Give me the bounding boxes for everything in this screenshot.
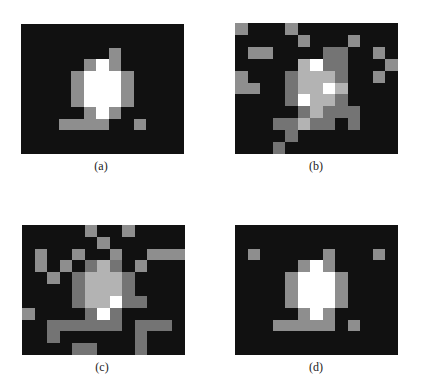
pixel-cell <box>121 71 134 83</box>
pixel-cell <box>248 23 261 35</box>
pixel-cell <box>96 142 109 154</box>
pixel-cell <box>348 249 361 261</box>
pixel-cell <box>323 47 336 59</box>
pixel-cell <box>323 260 336 272</box>
pixel-cell <box>135 320 148 332</box>
pixel-cell <box>135 249 148 261</box>
pixel-cell <box>97 343 110 355</box>
pixel-cell <box>84 119 97 131</box>
pixel-cell <box>47 308 60 320</box>
pixel-cell <box>135 284 148 296</box>
pixel-cell <box>323 308 336 320</box>
pixel-cell <box>72 320 85 332</box>
pixel-cell <box>385 225 398 237</box>
pixel-cell <box>385 272 398 284</box>
pixel-cell <box>160 320 173 332</box>
pixel-cell <box>235 320 248 332</box>
pixel-cell <box>147 296 160 308</box>
pixel-cell <box>34 95 47 107</box>
pixel-cell <box>335 71 348 83</box>
pixel-cell <box>248 272 261 284</box>
pixel-cell <box>109 95 122 107</box>
pixel-cell <box>60 284 73 296</box>
pixel-cell <box>59 119 72 131</box>
pixel-cell <box>171 71 184 83</box>
pixel-cell <box>34 48 47 60</box>
pixel-cell <box>134 36 147 48</box>
pixel-cell <box>22 237 35 249</box>
pixel-cell <box>35 225 48 237</box>
pixel-cell <box>360 237 373 249</box>
pixel-cell <box>134 107 147 119</box>
pixel-cell <box>310 118 323 130</box>
pixel-cell <box>373 260 386 272</box>
pixel-cell <box>323 130 336 142</box>
pixel-cell <box>348 83 361 95</box>
pixel-cell <box>348 237 361 249</box>
pixel-cell <box>121 95 134 107</box>
pixel-cell <box>22 320 35 332</box>
pixel-cell <box>248 308 261 320</box>
pixel-cell <box>96 119 109 131</box>
pixel-cell <box>34 71 47 83</box>
pixel-cell <box>373 308 386 320</box>
pixel-cell <box>96 71 109 83</box>
pixel-cell <box>159 107 172 119</box>
pixel-cell <box>159 24 172 36</box>
pixel-cell <box>159 48 172 60</box>
pixel-cell <box>285 106 298 118</box>
pixel-cell <box>110 308 123 320</box>
pixel-cell <box>109 130 122 142</box>
pixel-cell <box>110 296 123 308</box>
pixel-cell <box>298 47 311 59</box>
pixel-cell <box>147 284 160 296</box>
pixel-cell <box>59 107 72 119</box>
pixel-cell <box>110 320 123 332</box>
pixel-cell <box>172 284 185 296</box>
pixel-cell <box>385 237 398 249</box>
pixel-cell <box>34 59 47 71</box>
pixel-cell <box>47 331 60 343</box>
pixel-cell <box>97 331 110 343</box>
pixel-cell <box>46 107 59 119</box>
pixel-cell <box>298 35 311 47</box>
pixel-cell <box>323 343 336 355</box>
pixel-cell <box>46 142 59 154</box>
pixel-cell <box>273 272 286 284</box>
pixel-cell <box>59 142 72 154</box>
pixel-cell <box>84 24 97 36</box>
pixel-cell <box>273 59 286 71</box>
pixel-cell <box>97 308 110 320</box>
pixel-cell <box>160 296 173 308</box>
pixel-cell <box>59 130 72 142</box>
pixel-cell <box>360 142 373 154</box>
pixel-cell <box>235 118 248 130</box>
pixel-cell <box>96 36 109 48</box>
pixel-cell <box>96 107 109 119</box>
panel-b-caption: (b) <box>296 160 336 172</box>
pixel-cell <box>273 35 286 47</box>
pixel-cell <box>260 59 273 71</box>
pixel-cell <box>385 308 398 320</box>
pixel-cell <box>298 260 311 272</box>
pixel-cell <box>71 24 84 36</box>
pixel-cell <box>122 343 135 355</box>
pixel-cell <box>121 48 134 60</box>
pixel-cell <box>248 94 261 106</box>
pixel-cell <box>159 83 172 95</box>
pixel-cell <box>171 119 184 131</box>
pixel-cell <box>146 48 159 60</box>
pixel-cell <box>285 225 298 237</box>
pixel-cell <box>109 24 122 36</box>
pixel-cell <box>335 106 348 118</box>
pixel-cell <box>47 320 60 332</box>
pixel-cell <box>47 296 60 308</box>
pixel-cell <box>72 308 85 320</box>
pixel-cell <box>160 284 173 296</box>
pixel-cell <box>248 106 261 118</box>
pixel-cell <box>159 71 172 83</box>
pixel-cell <box>146 130 159 142</box>
panel-d-image <box>235 225 398 355</box>
pixel-cell <box>172 249 185 261</box>
pixel-cell <box>85 260 98 272</box>
